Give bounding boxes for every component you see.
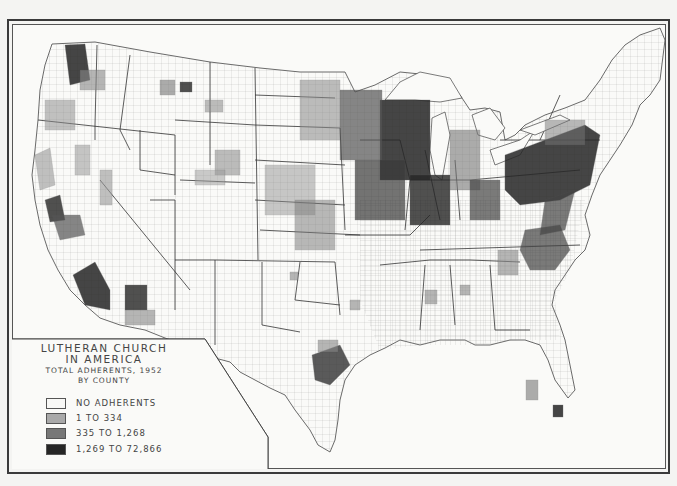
legend-swatch-mid (46, 428, 66, 439)
legend-item-no-adherents: NO ADHERENTS (46, 397, 156, 409)
legend-label: NO ADHERENTS (76, 398, 156, 408)
legend-item-high: 1,269 TO 72,866 (46, 443, 162, 455)
legend-subtitle: IN AMERICA (14, 353, 194, 365)
legend-label: 335 TO 1,268 (76, 428, 146, 438)
legend-swatch-high (46, 444, 66, 455)
legend-swatch-low (46, 413, 66, 424)
legend-label: 1 TO 334 (76, 413, 123, 423)
legend-unit: BY COUNTY (14, 376, 194, 385)
legend-label: 1,269 TO 72,866 (76, 444, 162, 454)
legend-item-low: 1 TO 334 (46, 412, 123, 424)
legend-description: TOTAL ADHERENTS, 1952 (14, 366, 194, 375)
legend-swatch-none (46, 398, 66, 409)
legend-item-mid: 335 TO 1,268 (46, 427, 146, 439)
